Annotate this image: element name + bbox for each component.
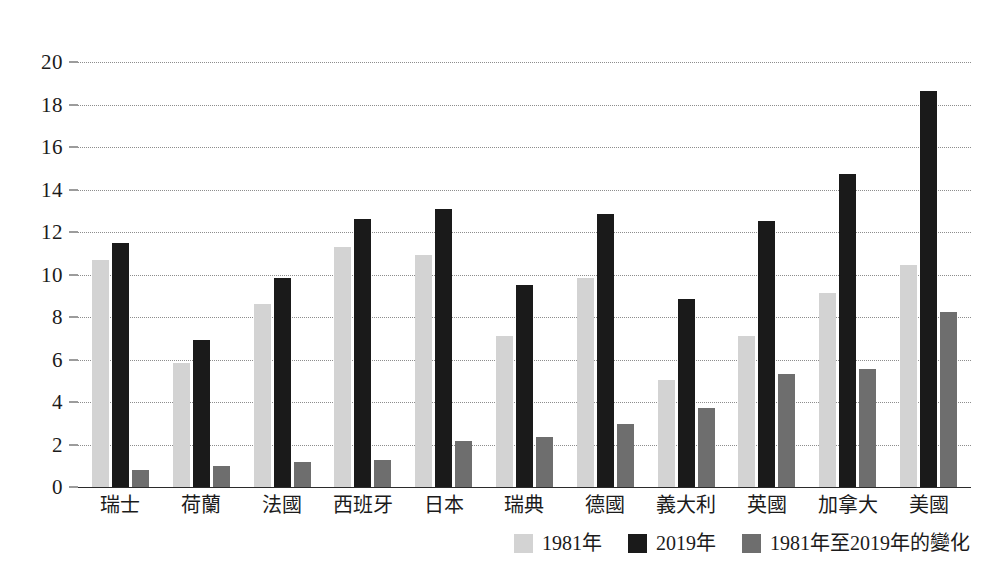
bar: [374, 460, 391, 487]
bar-group: [646, 62, 727, 487]
bar-group: [80, 62, 161, 487]
y-axis-tick: 2: [52, 432, 78, 457]
chart-legend: 1981年2019年1981年至2019年的變化: [0, 530, 986, 556]
bar: [354, 219, 371, 487]
bar-group: [242, 62, 323, 487]
y-axis-tick-label: 2: [52, 432, 63, 457]
y-axis-tick: 6: [52, 347, 78, 372]
bar: [455, 441, 472, 487]
bar: [738, 336, 755, 487]
x-axis-category-labels: 瑞士荷蘭法國西班牙日本瑞典德國義大利英國加拿大美國: [78, 492, 971, 518]
x-axis-category-label: 美國: [888, 492, 969, 518]
bar: [213, 466, 230, 487]
y-axis-tick-label: 12: [41, 220, 63, 245]
bar: [415, 255, 432, 487]
y-axis-tick-mark: [69, 317, 78, 318]
bar-group: [807, 62, 888, 487]
x-axis-category-label: 德國: [565, 492, 646, 518]
bar-group: [727, 62, 808, 487]
y-axis-tick: 18: [41, 92, 78, 117]
bar: [577, 278, 594, 487]
y-axis-tick-mark: [69, 147, 78, 148]
legend-item[interactable]: 1981年至2019年的變化: [742, 530, 970, 556]
legend-swatch: [742, 534, 761, 553]
bar: [435, 209, 452, 487]
legend-label: 1981年: [542, 530, 602, 556]
y-axis-tick-label: 14: [41, 177, 63, 202]
x-axis-category-label: 義大利: [646, 492, 727, 518]
x-axis-baseline: [78, 487, 971, 488]
y-axis-tick-mark: [69, 189, 78, 190]
y-axis-tick: 20: [41, 50, 78, 75]
x-axis-category-label: 荷蘭: [161, 492, 242, 518]
bar: [859, 369, 876, 487]
x-axis-category-label: 英國: [727, 492, 808, 518]
bar: [536, 437, 553, 487]
plot-area: [78, 62, 971, 487]
bar: [132, 470, 149, 487]
bar: [940, 312, 957, 487]
x-axis-category-label: 西班牙: [322, 492, 403, 518]
bar: [496, 336, 513, 487]
bar: [658, 380, 675, 487]
y-axis-tick-label: 0: [52, 475, 63, 500]
y-axis-tick: 14: [41, 177, 78, 202]
y-axis-tick: 8: [52, 305, 78, 330]
x-axis-category-label: 加拿大: [807, 492, 888, 518]
bar: [254, 304, 271, 487]
y-axis-tick-mark: [69, 402, 78, 403]
y-axis-tick-label: 8: [52, 305, 63, 330]
y-axis-tick-label: 4: [52, 390, 63, 415]
y-axis-tick-mark: [69, 444, 78, 445]
y-axis-tick: 0: [52, 475, 78, 500]
legend-swatch: [514, 534, 533, 553]
bar: [778, 374, 795, 487]
bar: [900, 265, 917, 487]
bar: [617, 424, 634, 487]
bar-group: [403, 62, 484, 487]
bar-group: [322, 62, 403, 487]
y-axis-tick-label: 18: [41, 92, 63, 117]
x-axis-category-label: 法國: [242, 492, 323, 518]
y-axis-tick: 4: [52, 390, 78, 415]
bar: [274, 278, 291, 487]
y-axis-tick-label: 6: [52, 347, 63, 372]
bar: [819, 293, 836, 487]
y-axis: 20181614121086420: [0, 62, 78, 487]
y-axis-tick-mark: [69, 359, 78, 360]
legend-item[interactable]: 1981年: [514, 530, 602, 556]
x-axis-category-label: 日本: [403, 492, 484, 518]
y-axis-tick-mark: [69, 104, 78, 105]
y-axis-tick-mark: [69, 232, 78, 233]
x-axis-category-label: 瑞士: [80, 492, 161, 518]
bar-group: [484, 62, 565, 487]
bar: [173, 363, 190, 487]
bar: [516, 285, 533, 487]
bar: [597, 214, 614, 487]
legend-swatch: [628, 534, 647, 553]
y-axis-tick-label: 10: [41, 262, 63, 287]
bar-chart: 20181614121086420 瑞士荷蘭法國西班牙日本瑞典德國義大利英國加拿…: [0, 0, 986, 586]
bar: [698, 408, 715, 487]
bar: [920, 91, 937, 487]
bars-layer: [78, 62, 971, 487]
bar: [92, 260, 109, 487]
y-axis-tick: 12: [41, 220, 78, 245]
y-axis-tick: 16: [41, 135, 78, 160]
legend-item[interactable]: 2019年: [628, 530, 716, 556]
y-axis-tick-mark: [69, 62, 78, 63]
y-axis-tick-mark: [69, 274, 78, 275]
y-axis-tick-mark: [69, 487, 78, 488]
bar: [112, 243, 129, 487]
legend-label: 2019年: [656, 530, 716, 556]
bar: [193, 340, 210, 487]
bar-group: [565, 62, 646, 487]
clipped-title-sliver: [420, 0, 740, 4]
legend-label: 1981年至2019年的變化: [770, 530, 970, 556]
bar: [678, 299, 695, 487]
bar: [294, 462, 311, 488]
bar: [334, 247, 351, 487]
x-axis-category-label: 瑞典: [484, 492, 565, 518]
bar: [758, 221, 775, 487]
y-axis-tick-label: 20: [41, 50, 63, 75]
